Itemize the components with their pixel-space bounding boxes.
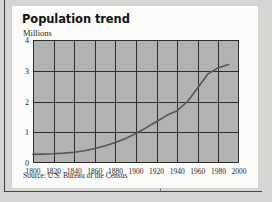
x-tick-label: 1940 — [170, 167, 185, 176]
x-tick-label: 1980 — [211, 167, 226, 176]
plot-area-wrapper: 01234 1800182018401860188019001920194019… — [33, 40, 239, 163]
x-tick-label: 1900 — [129, 167, 144, 176]
series-population-line — [33, 65, 229, 155]
x-tick-label: 1920 — [149, 167, 164, 176]
y-tick-label: 3 — [25, 66, 29, 75]
y-tick-label: 2 — [25, 97, 29, 106]
page-baseline-rule — [4, 191, 262, 192]
page-background: Population trend Millions 01234 18001820… — [0, 0, 272, 202]
y-tick-label: 1 — [25, 128, 29, 137]
chart-title: Population trend — [22, 12, 130, 26]
y-tick-label: 4 — [25, 36, 29, 45]
figure-card: Population trend Millions 01234 18001820… — [12, 6, 258, 188]
page-gutter-rule — [4, 0, 5, 192]
x-tick-label: 2000 — [232, 167, 247, 176]
series-line-chart — [33, 40, 239, 163]
x-tick-label: 1960 — [190, 167, 205, 176]
chart-source-note: Source: U.S. Bureau of the Census — [23, 171, 127, 180]
